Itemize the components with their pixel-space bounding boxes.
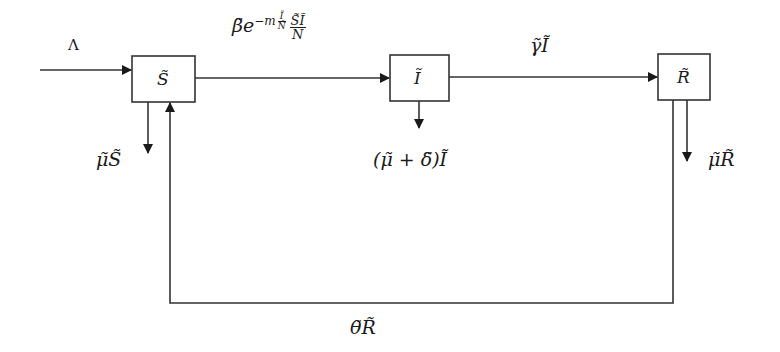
infection-e: e	[243, 14, 254, 36]
recruitment-label: Λ	[68, 38, 79, 53]
infection-coef: β̃	[232, 14, 243, 36]
loss-of-immunity-label: θ̃R̃	[350, 318, 376, 337]
death-s-label: μ̃S̃	[96, 150, 121, 169]
recovery-label: γ̃Ĩ	[530, 36, 549, 55]
death-r-label: μ̃R̃	[708, 150, 735, 169]
flow-diagram	[0, 0, 780, 352]
compartment-i-label: Ĩ	[414, 70, 421, 87]
exponent-fraction: ĨÑ	[278, 12, 286, 31]
infection-label: β̃e−mĨÑS̃ĨÑ	[232, 12, 308, 41]
death-i-label: (μ̃ + δ̃)Ĩ	[373, 150, 447, 169]
compartment-s-label: S̃	[157, 71, 169, 88]
incidence-fraction: S̃ĨÑ	[290, 14, 306, 41]
infection-exponent: −mĨÑ	[254, 14, 287, 28]
compartment-r-label: R̃	[677, 69, 690, 86]
loss-of-immunity-arrow	[170, 100, 673, 303]
